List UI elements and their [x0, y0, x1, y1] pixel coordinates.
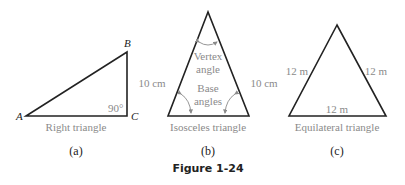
right-side-label: 10 cm — [250, 77, 278, 89]
figure-canvas: A B C 90° Right triangle (a) Vertex angl… — [0, 0, 405, 185]
vertex-c-label: C — [131, 110, 139, 122]
figure-title: Figure 1-24 — [172, 162, 244, 175]
vertex-a-label: A — [15, 110, 23, 122]
equilateral-triangle-panel: 12 m 12 m 12 m Equilateral triangle (c) — [286, 25, 388, 158]
vertex-b-label: B — [124, 37, 131, 49]
isosceles-triangle-name: Isosceles triangle — [170, 121, 246, 133]
base-angles-label-1: Base — [197, 82, 219, 94]
right-base-angle-arc — [225, 94, 235, 113]
right-side-label: 12 m — [365, 65, 388, 77]
panel-b-caption: (b) — [201, 144, 215, 158]
equilateral-triangle-name: Equilateral triangle — [295, 121, 380, 133]
vertex-angle-label-1: Vertex — [194, 50, 223, 62]
isosceles-triangle-panel: Vertex angle Base angles 10 cm 10 cm Iso… — [138, 12, 278, 175]
base-side-label: 12 m — [326, 103, 349, 115]
panel-c-caption: (c) — [330, 144, 343, 158]
left-side-label: 10 cm — [138, 77, 166, 89]
right-angle-label: 90° — [108, 102, 123, 114]
left-base-angle-arc — [181, 94, 191, 113]
panel-a-caption: (a) — [69, 144, 82, 158]
vertex-angle-arc — [199, 42, 217, 45]
right-triangle-panel: A B C 90° Right triangle (a) — [15, 37, 139, 158]
left-side-label: 12 m — [286, 65, 309, 77]
base-angles-label-2: angles — [194, 95, 222, 107]
vertex-angle-label-2: angle — [196, 63, 220, 75]
right-triangle-name: Right triangle — [46, 121, 107, 133]
